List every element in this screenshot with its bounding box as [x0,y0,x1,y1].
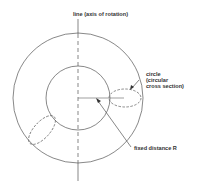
distance-pointer-line [98,101,131,147]
distance-pointer-arrowhead [96,98,101,103]
axis-label: line (axis of rotation) [73,11,128,17]
cross-section-left [24,111,60,148]
distance-label: fixed distance R [134,145,177,151]
torus-diagram [0,0,198,184]
circle-pointer-arrowhead [130,85,134,90]
circle-label-line3: cross section) [146,83,184,89]
